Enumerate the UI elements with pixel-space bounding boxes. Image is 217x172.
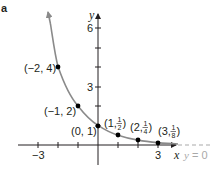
svg-text:1: 1 (144, 120, 148, 127)
asymptote-label: y = 0 (183, 149, 208, 161)
point-3 (156, 141, 161, 146)
svg-text:1: 1 (172, 124, 176, 131)
x-tick-label-3: 3 (155, 149, 161, 161)
point-label-3: (3, 1 8 ) (158, 124, 180, 139)
y-axis-label: y (88, 8, 95, 22)
point-1 (116, 133, 121, 138)
svg-text:4: 4 (144, 128, 148, 135)
svg-text:(2,: (2, (130, 121, 143, 133)
point-label-2: (2, 1 4 ) (130, 120, 152, 135)
svg-text:(1,: (1, (104, 117, 117, 129)
point-label-0: (0, 1) (71, 125, 97, 137)
svg-text:): ) (123, 117, 127, 129)
panel-label: a (1, 2, 8, 14)
y-tick-label-3: 3 (87, 81, 93, 93)
svg-text:8: 8 (172, 132, 176, 139)
x-tick-label-neg3: −3 (32, 149, 45, 161)
svg-text:(3,: (3, (158, 125, 171, 137)
svg-text:1: 1 (118, 116, 122, 123)
y-tick-label-6: 6 (87, 22, 93, 34)
point-label-neg2: (−2, 4) (24, 62, 56, 74)
svg-text:): ) (149, 121, 153, 133)
point-label-neg1: (−1, 2) (44, 105, 76, 117)
svg-text:2: 2 (118, 124, 122, 131)
exponential-graph: a −3 3 3 6 x y y = 0 (0, 0, 217, 172)
point-label-1: (1, 1 2 ) (104, 116, 126, 131)
point-2 (136, 138, 141, 143)
curve-arrow-icon (48, 12, 51, 24)
svg-text:): ) (177, 125, 181, 137)
x-axis-label: x (173, 148, 180, 162)
point-neg2 (56, 65, 61, 70)
point-neg1 (76, 104, 81, 109)
